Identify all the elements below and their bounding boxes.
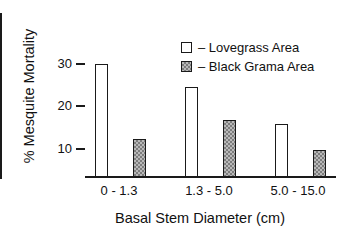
legend-label-black-grama: – Black Grama Area xyxy=(198,59,314,74)
bar-lovegrass-5.0-15.0 xyxy=(275,124,288,177)
bar-black-grama-1.3-5.0 xyxy=(223,120,236,177)
x-tick-label-0-1.3: 0 - 1.3 xyxy=(77,183,161,198)
y-tick-mark-20 xyxy=(76,105,85,107)
legend-swatch-hatched-square-icon xyxy=(181,61,192,72)
x-tick-label-5.0-15.0: 5.0 - 15.0 xyxy=(256,183,340,198)
y-tick-label-10: 10 xyxy=(48,142,72,155)
bar-black-grama-5.0-15.0 xyxy=(313,150,326,177)
chart-legend: – Lovegrass Area – Black Grama Area xyxy=(181,39,341,77)
y-tick-mark-30 xyxy=(76,63,85,65)
legend-item-lovegrass: – Lovegrass Area xyxy=(181,39,341,56)
legend-label-lovegrass: – Lovegrass Area xyxy=(198,40,299,55)
legend-swatch-open-square-icon xyxy=(181,42,192,53)
y-tick-label-30: 30 xyxy=(48,57,72,70)
y-tick-label-20: 20 xyxy=(48,99,72,112)
legend-item-black-grama: – Black Grama Area xyxy=(181,58,341,75)
legend-dash-lovegrass: – xyxy=(198,40,205,55)
x-axis-title: Basal Stem Diameter (cm) xyxy=(60,210,340,226)
bars-layer xyxy=(87,13,336,177)
mesquite-mortality-bar-chart: % Mesquite Mortality 30 20 10 0 - 1.3 1.… xyxy=(0,0,346,241)
y-axis-title: % Mesquite Mortality xyxy=(21,1,37,191)
legend-name-black-grama: Black Grama Area xyxy=(209,59,315,74)
bar-lovegrass-1.3-5.0 xyxy=(185,87,198,177)
y-axis-tick-labels: 30 20 10 xyxy=(46,0,72,241)
y-tick-mark-10 xyxy=(76,148,85,150)
x-tick-label-1.3-5.0: 1.3 - 5.0 xyxy=(167,183,251,198)
legend-name-lovegrass: Lovegrass Area xyxy=(209,40,299,55)
x-axis-tick-labels: 0 - 1.3 1.3 - 5.0 5.0 - 15.0 xyxy=(85,183,336,201)
y-axis-line xyxy=(0,13,2,179)
bar-black-grama-0-1.3 xyxy=(133,139,146,177)
legend-dash-black-grama: – xyxy=(198,59,205,74)
bar-lovegrass-0-1.3 xyxy=(95,64,108,177)
